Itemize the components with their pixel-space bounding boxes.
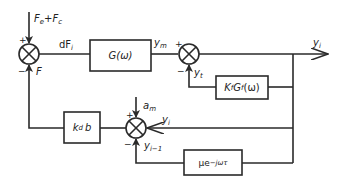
block-kdb-label: kdb [64,112,100,143]
label-yt: yt [194,68,203,80]
sign-s2-bottom: − [177,67,185,76]
block-delay-label: μe−jωτ [184,150,242,175]
label-ym: ym [154,38,167,50]
summing-junction-1 [19,44,39,64]
sign-s2-left: + [175,40,183,49]
label-yi-minus-1: yi−1 [144,141,162,153]
block-kfgf-label: KfGf(ω) [216,76,268,99]
block-g-label: G(ω) [90,40,151,71]
sign-s3-bottom: − [124,140,132,149]
block-diagram-canvas [0,0,341,191]
wire-F-feedback [29,65,64,128]
sign-s1-bottom: − [18,67,26,76]
sign-s3-top: + [126,111,134,120]
label-fe-fc: Fe+Fc [34,14,62,26]
sign-s1-top: + [19,36,27,45]
label-yi-feedback: yi [162,115,170,127]
label-yi-output: yi [313,38,321,50]
label-am: am [143,101,156,113]
label-F: F [36,67,42,77]
summing-junction-3 [126,118,146,138]
label-dFi: dFi [59,40,73,52]
